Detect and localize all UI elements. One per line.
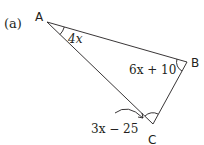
vertex-label-b: B <box>191 56 199 70</box>
angle-arc-a <box>60 27 64 35</box>
vertex-label-a: A <box>35 10 44 24</box>
angle-label-a: 4x <box>67 32 83 46</box>
angle-label-b: 6x + 10 <box>129 63 176 77</box>
angle-label-c: 3x − 25 <box>91 122 138 136</box>
part-label: (a) <box>4 16 22 31</box>
angle-arc-c <box>145 113 158 116</box>
vertex-label-c: C <box>148 133 156 145</box>
triangle-diagram: (a) A B C 4x 6x + 10 3x − 25 <box>0 0 204 145</box>
